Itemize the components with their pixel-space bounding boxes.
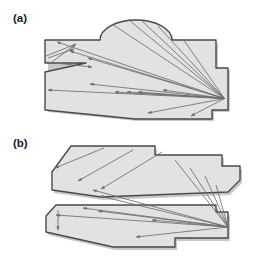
panel-b-upper-polygon <box>52 146 240 197</box>
panel-b-label: (b) <box>13 137 28 149</box>
panel-a: (a) <box>13 12 230 121</box>
panel-b: (b) <box>13 137 242 250</box>
ray-diagram-svg: (a) <box>0 0 253 261</box>
figure-root: (a) <box>0 0 253 261</box>
panel-a-polygon <box>45 20 228 119</box>
panel-a-label: (a) <box>13 12 27 24</box>
